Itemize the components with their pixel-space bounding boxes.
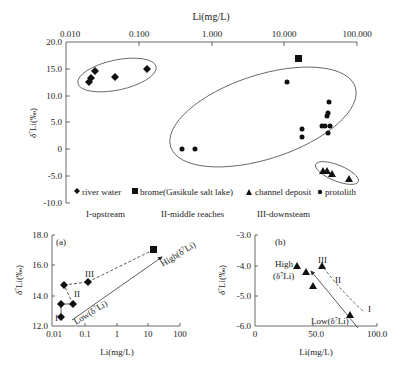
inset-b-x-ticks: 0 50.0 100.0 [253, 329, 388, 339]
svg-text:0: 0 [58, 144, 63, 154]
svg-text:(δ7Li): (δ7Li) [273, 271, 294, 281]
svg-text:20.0: 20.0 [46, 37, 62, 47]
svg-text:river water: river water [82, 187, 121, 197]
inset-a-points [57, 246, 157, 321]
svg-text:brome(Gasikule salt lake): brome(Gasikule salt lake) [140, 187, 233, 197]
brome-point [295, 55, 302, 62]
inset-b-panel-label: (b) [275, 237, 286, 247]
main-x-ticks: 0.010 0.100 1.000 10.000 100.000 [60, 29, 372, 39]
legend-square-icon [132, 188, 138, 194]
inset-a-high-label: High(δ7Li) [159, 239, 198, 268]
legend-diamond-icon [74, 188, 80, 194]
svg-text:1.000: 1.000 [202, 29, 223, 39]
inset-b-y-ticks: -3.0 -4.0 -5.0 -6.0 [237, 230, 252, 331]
svg-text:-5.0: -5.0 [237, 291, 252, 301]
inset-b-high-label: High [275, 259, 294, 269]
svg-text:I: I [55, 313, 58, 323]
inset-a-x-ticks: 0.01 0.1 1 10 100 [46, 329, 187, 339]
inset-a-y-axis-title: δ7Li(‰) [14, 265, 24, 295]
figure: Li(mg/L) 0.010 0.100 1.000 10.000 100.00… [0, 0, 404, 368]
main-chart: Li(mg/L) 0.010 0.100 1.000 10.000 100.00… [28, 11, 372, 219]
main-x-axis-title: Li(mg/L) [192, 11, 229, 23]
legend-circle-icon [318, 190, 322, 194]
svg-text:I: I [368, 304, 371, 314]
inset-b-low-label: Low(δ7Li) [311, 316, 349, 326]
svg-text:protolith: protolith [325, 187, 356, 197]
svg-text:II: II [74, 289, 80, 299]
inset-a-panel-label: (a) [56, 237, 66, 247]
svg-text:II-middle reaches: II-middle reaches [161, 209, 225, 219]
svg-text:III: III [318, 255, 327, 265]
svg-text:III: III [85, 269, 94, 279]
svg-text:0.01: 0.01 [46, 329, 62, 339]
svg-text:-6.0: -6.0 [237, 321, 252, 331]
svg-text:5.0: 5.0 [51, 117, 63, 127]
protolith-points [180, 80, 333, 152]
inset-a-low-label: Low(δ7Li) [72, 298, 109, 326]
svg-text:15.0: 15.0 [46, 64, 62, 74]
svg-text:-3.0: -3.0 [237, 230, 252, 240]
svg-text:-4.0: -4.0 [237, 261, 252, 271]
svg-text:II: II [335, 275, 341, 285]
svg-text:10.0: 10.0 [46, 91, 62, 101]
svg-text:100.000: 100.000 [342, 29, 372, 39]
svg-text:100.0: 100.0 [367, 329, 388, 339]
svg-text:10: 10 [144, 329, 154, 339]
inset-b-points [293, 262, 354, 318]
inset-a-y-ticks: 18.0 16.0 14.0 12.0 [32, 230, 48, 331]
svg-text:18.0: 18.0 [32, 230, 48, 240]
protolith-ellipse [158, 47, 368, 187]
svg-text:channel deposit: channel deposit [255, 187, 312, 197]
svg-text:0: 0 [253, 329, 258, 339]
main-legend: river water brome(Gasikule salt lake) ch… [74, 187, 356, 219]
inset-b-y-axis-title: δ7Li(‰) [217, 265, 227, 295]
inset-b-chart: -3.0 -4.0 -5.0 -6.0 0 50.0 100.0 Li(mg/L… [217, 230, 388, 357]
svg-text:-10.0: -10.0 [43, 198, 62, 208]
inset-a-x-axis-title: Li(mg/L) [100, 347, 134, 357]
svg-text:-5.0: -5.0 [48, 171, 63, 181]
svg-text:1: 1 [115, 329, 120, 339]
svg-text:100: 100 [173, 329, 187, 339]
svg-text:III-downsteam: III-downsteam [257, 209, 310, 219]
main-y-axis-title: δ7Li(‰) [28, 108, 38, 138]
svg-text:0.100: 0.100 [129, 29, 150, 39]
svg-text:50.0: 50.0 [308, 329, 324, 339]
inset-a-chart: 18.0 16.0 14.0 12.0 0.01 0.1 1 10 100 Li… [14, 230, 197, 357]
svg-text:0.010: 0.010 [60, 29, 81, 39]
svg-text:0.1: 0.1 [79, 329, 90, 339]
svg-text:10.000: 10.000 [272, 29, 297, 39]
legend-triangle-icon [246, 189, 252, 195]
main-y-ticks: 20.0 15.0 10.0 5.0 0 -5.0 -10.0 [43, 37, 62, 208]
svg-text:14.0: 14.0 [32, 291, 48, 301]
svg-text:16.0: 16.0 [32, 260, 48, 270]
svg-text:I-upstream: I-upstream [86, 209, 125, 219]
inset-b-x-axis-title: Li(mg/L) [299, 347, 333, 357]
